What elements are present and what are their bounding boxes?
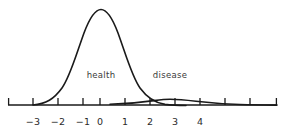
x-axis-tick-labels: −3 −2 −1 0 1 2 3 4 [26, 116, 203, 127]
tick-label-neg1: −1 [76, 116, 90, 127]
tick-label-2: 2 [147, 116, 153, 127]
chart-canvas: −3 −2 −1 0 1 2 3 4 health disease [0, 0, 285, 131]
disease-curve [110, 99, 277, 105]
tick-label-0: 0 [97, 116, 103, 127]
health-region-label: health [87, 70, 116, 80]
tick-label-1: 1 [122, 116, 128, 127]
health-curve [33, 10, 186, 106]
disease-curve-group [110, 99, 277, 105]
curve-annotations: health disease [87, 70, 188, 80]
health-curve-group [33, 10, 186, 106]
tick-label-neg3: −3 [26, 116, 40, 127]
tick-label-4: 4 [197, 116, 203, 127]
disease-region-label: disease [153, 70, 187, 80]
distribution-overlap-chart: −3 −2 −1 0 1 2 3 4 health disease [0, 0, 285, 131]
tick-label-neg2: −2 [51, 116, 65, 127]
tick-label-3: 3 [172, 116, 178, 127]
